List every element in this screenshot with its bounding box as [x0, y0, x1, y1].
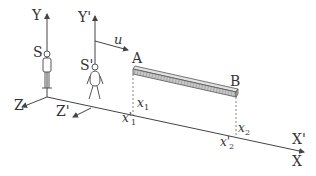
x2-label: x 2 [238, 121, 250, 137]
x-axis-label: X [292, 153, 302, 169]
s-frame-axes [22, 14, 304, 152]
svg-text:x: x [137, 96, 144, 110]
u-label: u [114, 32, 122, 47]
svg-text:1: 1 [131, 118, 136, 127]
svg-text:1: 1 [144, 103, 149, 112]
z-prime-axis [73, 108, 91, 117]
rod-end-a-label: A [131, 50, 143, 66]
z-axis [22, 97, 47, 107]
y-prime-axis-label: Y' [77, 9, 91, 25]
x-axis [47, 97, 304, 152]
s-label: S [33, 44, 43, 60]
rod-end-b-label: B [230, 73, 240, 89]
x1-prime-label: x' 1 [122, 111, 136, 127]
x1-label: x 1 [137, 96, 149, 112]
svg-text:x: x [238, 121, 245, 135]
s-prime-label: S' [80, 57, 93, 73]
x-prime-axis-label: X' [292, 131, 306, 147]
x2-prime-label: x' 2 [220, 135, 234, 151]
y-axis-label: Y [31, 7, 42, 23]
svg-text:2: 2 [229, 142, 234, 151]
z-axis-label: Z [14, 97, 24, 113]
rod-ab [133, 66, 238, 97]
z-prime-axis-label: Z' [56, 103, 70, 119]
u-velocity-arrow [95, 41, 128, 50]
svg-text:2: 2 [245, 128, 250, 137]
relativity-diagram: Y Y' S S' u A B Z Z' X' X x 1 x' 1 x 2 x… [0, 0, 316, 176]
